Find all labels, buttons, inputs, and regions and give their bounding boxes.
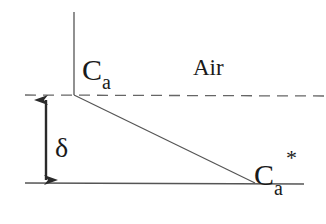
concentration-profile-line <box>74 95 255 183</box>
film-diagram: Ca Air δ Ca* <box>0 0 326 224</box>
film-thickness-label: δ <box>55 132 68 163</box>
equilibrium-concentration-label: Ca* <box>254 145 297 199</box>
interface-dashed-line <box>25 95 326 96</box>
air-label: Air <box>193 55 224 80</box>
surface-concentration-label: Ca <box>82 53 111 93</box>
